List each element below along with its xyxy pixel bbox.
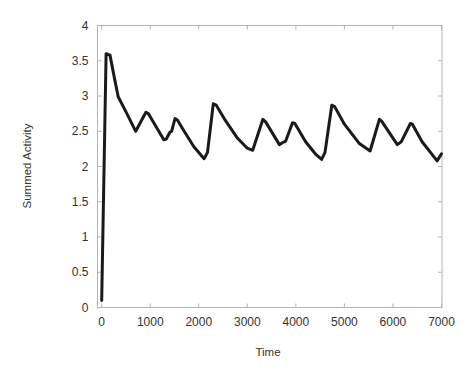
x-tick-label: 4000 <box>283 315 310 329</box>
y-tick-label: 1.5 <box>72 195 89 209</box>
y-axis-ticks: 00.511.522.533.54 <box>72 19 442 315</box>
x-tick-label: 2000 <box>185 315 212 329</box>
y-tick-label: 3 <box>82 89 89 103</box>
y-axis-label: Summed Activity <box>21 123 33 208</box>
x-tick-label: 1000 <box>137 315 164 329</box>
x-tick-label: 7000 <box>428 315 455 329</box>
data-series <box>102 54 442 301</box>
series-line <box>102 54 442 301</box>
y-tick-label: 2 <box>82 160 89 174</box>
x-tick-label: 0 <box>98 315 105 329</box>
y-tick-label: 1 <box>82 230 89 244</box>
y-tick-label: 4 <box>82 19 89 33</box>
plot-area-border <box>98 26 443 308</box>
x-axis-label: Time <box>255 346 280 358</box>
x-tick-label: 5000 <box>331 315 358 329</box>
x-tick-label: 3000 <box>234 315 261 329</box>
x-tick-label: 6000 <box>380 315 407 329</box>
x-axis-ticks: 01000200030004000500060007000 <box>98 26 455 329</box>
y-tick-label: 0 <box>82 301 89 315</box>
y-tick-label: 2.5 <box>72 124 89 138</box>
line-chart: 01000200030004000500060007000 00.511.522… <box>0 0 472 372</box>
y-tick-label: 0.5 <box>72 265 89 279</box>
plot-frame <box>98 26 443 308</box>
y-tick-label: 3.5 <box>72 54 89 68</box>
